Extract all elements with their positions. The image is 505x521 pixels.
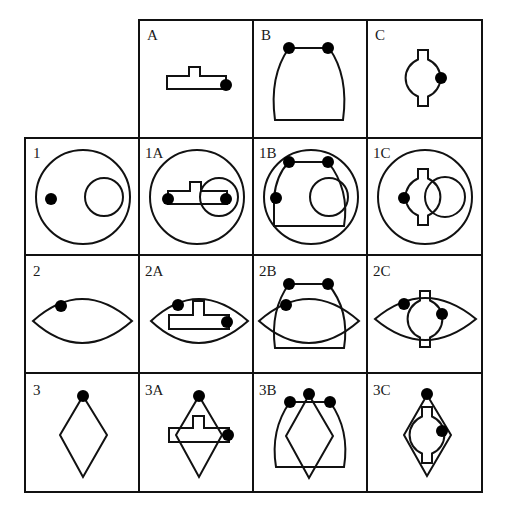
cell-2A: 2A (145, 263, 248, 343)
cell-2C: 2C (373, 263, 476, 347)
cell-label: 2 (33, 263, 41, 279)
combination-grid: A B C 1 1A 1B 1C (0, 0, 505, 521)
cell-3B: 3B (259, 382, 345, 478)
cell-label: 3 (33, 382, 41, 398)
cell-label: B (261, 27, 271, 43)
cell-B: B (261, 27, 344, 120)
grid-lines (25, 20, 482, 492)
cell-label: 1C (373, 145, 391, 161)
cell-label: 2B (259, 263, 277, 279)
cell-1: 1 (33, 145, 130, 244)
cell-3: 3 (33, 382, 107, 477)
cell-3C: 3C (373, 382, 451, 476)
cell-1B: 1B (259, 145, 358, 244)
cell-C: C (375, 27, 447, 106)
cell-3A: 3A (145, 382, 234, 477)
cell-label: 1 (33, 145, 41, 161)
cell-label: A (147, 27, 158, 43)
cell-label: 2A (145, 263, 164, 279)
cell-label: 1A (145, 145, 164, 161)
cell-1C: 1C (373, 145, 472, 244)
cell-label: 1B (259, 145, 277, 161)
cell-A: A (147, 27, 232, 91)
cell-label: 2C (373, 263, 391, 279)
cell-2: 2 (33, 263, 132, 343)
cell-label: 3B (259, 382, 277, 398)
cell-label: C (375, 27, 385, 43)
cell-2B: 2B (259, 263, 359, 348)
cell-1A: 1A (145, 145, 244, 244)
cell-label: 3A (145, 382, 164, 398)
cell-label: 3C (373, 382, 391, 398)
